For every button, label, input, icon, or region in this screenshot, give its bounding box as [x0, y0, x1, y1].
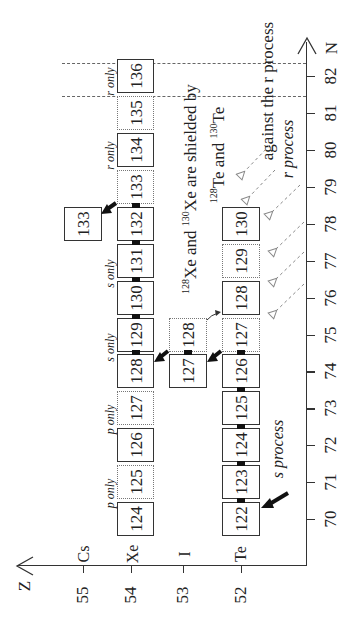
decay-arrow-xe128-icon [154, 351, 168, 362]
decay-arrow-i127-icon [207, 351, 221, 362]
r-process-arrows-icon [244, 145, 304, 311]
s-process-arrow-icon [261, 493, 288, 508]
arrows-overlay [0, 0, 350, 638]
decay-arrow-i128-te128-icon [207, 310, 221, 320]
decay-arrow-cs133-icon [101, 203, 116, 214]
